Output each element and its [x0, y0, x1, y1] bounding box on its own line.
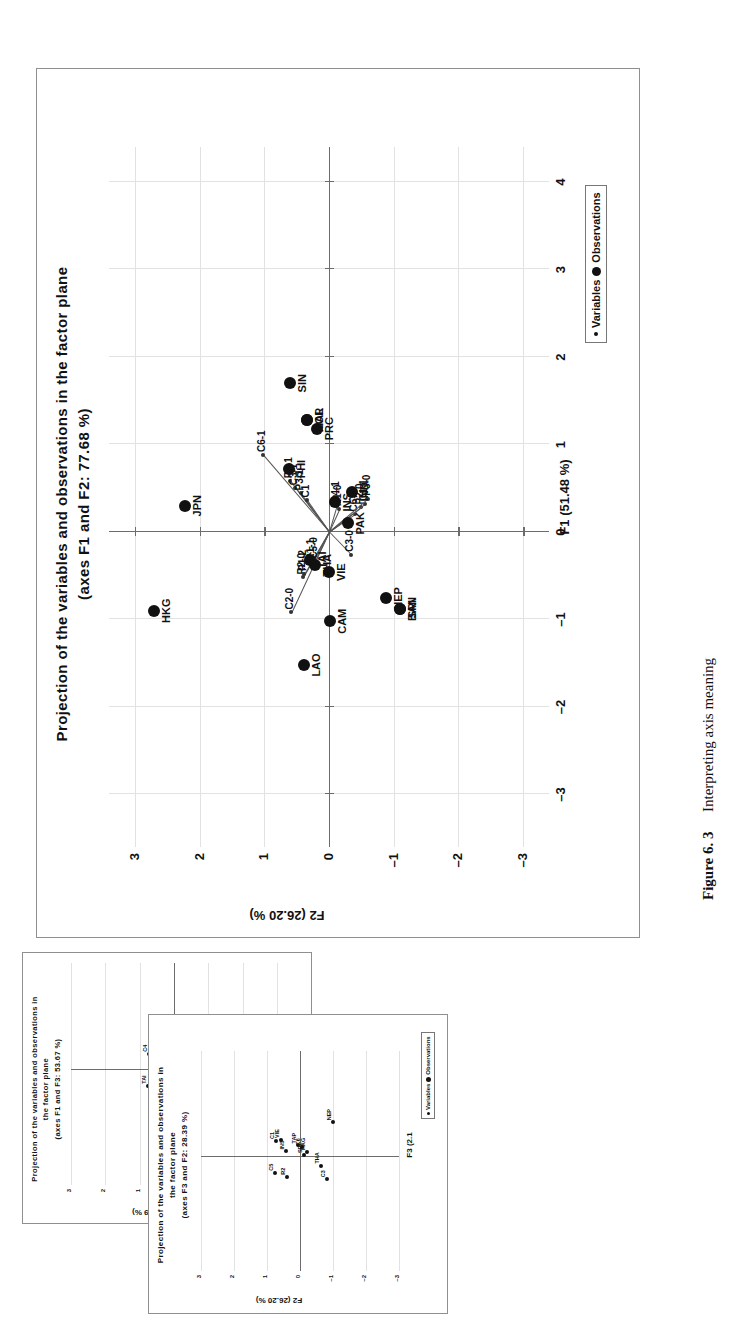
observation-label: BAN — [406, 597, 418, 621]
small-chart-2-title: Projection of the variables and observat… — [155, 1015, 191, 1315]
observation-label: C3 — [320, 1170, 326, 1177]
legend-observations-label-small2: Observations — [425, 1036, 431, 1074]
small-chart-1-title-line3: (axes F1 and F3: 53.67 %) — [52, 953, 63, 1225]
figure-caption: Figure 6. 3 Interpreting axis meaning — [700, 658, 717, 900]
observation-label: PAK — [354, 512, 366, 534]
chart-legend: Variables Observations — [585, 185, 607, 343]
y-axis-tick — [264, 527, 265, 536]
small-chart-2-title-line1: Projection of the variables and observat… — [155, 1015, 167, 1315]
y-gridline — [264, 147, 265, 847]
x-tick-label: –2 — [553, 691, 568, 723]
legend-variables-label: Variables — [590, 280, 602, 328]
observation-label: LAO — [310, 653, 322, 676]
observation-label: HKG — [160, 599, 172, 623]
x-axis-tick — [325, 793, 334, 794]
y-gridline — [71, 963, 72, 1185]
small-chart-2-rotated-canvas: Projection of the variables and observat… — [149, 1015, 449, 1315]
y-axis-tick — [200, 527, 201, 536]
y-tick-label: 3 — [66, 1189, 72, 1207]
y-gridline — [366, 1051, 367, 1271]
observation-point — [302, 1153, 306, 1157]
variable-label: C6-1 — [256, 430, 267, 452]
y-gridline — [234, 1051, 235, 1271]
observation-point — [301, 414, 313, 426]
legend-observations-marker-small2 — [426, 1077, 431, 1082]
x-axis-tick — [325, 268, 334, 269]
observation-label: CAM — [336, 609, 348, 634]
observation-point — [304, 554, 316, 566]
observation-label: TAI — [141, 1075, 147, 1083]
observation-label: SIN — [296, 374, 308, 392]
y-gridline — [201, 1051, 202, 1271]
small-chart-1-title: Projection of the variables and observat… — [29, 953, 63, 1225]
variable-label: C2-0 — [284, 588, 295, 610]
small-chart-2-legend: Variables Observations — [421, 1032, 435, 1119]
legend-observations-label: Observations — [590, 192, 602, 262]
x-tick-label: 1 — [553, 429, 568, 461]
small-chart-2-title-line2: the factor plane — [167, 1015, 179, 1315]
y-axis-tick — [523, 527, 524, 536]
observation-label: TAI — [316, 552, 328, 569]
figure-caption-text: Interpreting axis meaning — [700, 658, 716, 812]
y-tick-label: 0 — [295, 1275, 301, 1293]
y-gridline — [135, 147, 136, 847]
x-tick-label: 4 — [553, 166, 568, 198]
y-gridline — [140, 963, 141, 1185]
main-y-axis-title: F2 (26.20 %) — [157, 908, 417, 923]
variable-point — [349, 553, 353, 557]
legend-observations-marker — [592, 267, 601, 276]
y-tick-label: –3 — [394, 1275, 400, 1293]
small-figure-panel-2: Projection of the variables and observat… — [148, 1014, 448, 1314]
y-gridline — [458, 147, 459, 847]
figure-number: Figure 6. 3 — [700, 832, 716, 900]
y-tick-label: –3 — [515, 853, 530, 881]
y-axis-tick — [135, 527, 136, 536]
observation-label: C5 — [268, 1164, 274, 1171]
observation-point — [285, 1175, 289, 1179]
y-tick-label: 1 — [135, 1189, 141, 1207]
small-chart-2-x-axis-title: F3 (2.1 — [405, 1085, 414, 1205]
observation-label: THA — [314, 1152, 320, 1163]
small-chart-1-title-line1: Projection of the variables and observat… — [29, 953, 40, 1225]
y-gridline — [399, 1051, 400, 1271]
x-tick-label: –1 — [553, 604, 568, 636]
y-tick-label: –1 — [328, 1275, 334, 1293]
y-tick-label: –2 — [361, 1275, 367, 1293]
main-chart-inner: Projection of the variables and observat… — [37, 69, 641, 939]
small-chart-2-y-axis-title: F2 (26.20 %) — [199, 1296, 359, 1305]
variable-label: C1 — [300, 485, 311, 498]
observation-label: R2 — [280, 1168, 286, 1175]
y-gridline — [105, 963, 106, 1185]
y-axis-tick — [394, 527, 395, 536]
y-tick-label: –2 — [450, 853, 465, 881]
observation-point — [148, 605, 160, 617]
main-figure-panel: Projection of the variables and observat… — [36, 68, 640, 938]
main-x-axis-title: F1 (51.48 %) — [557, 347, 572, 647]
y-tick-label: 2 — [229, 1275, 235, 1293]
y-axis-line — [201, 1156, 399, 1157]
x-tick-label: 0 — [553, 516, 568, 548]
y-tick-label: –1 — [386, 853, 401, 881]
observation-label: IND — [358, 482, 370, 501]
main-chart-title: Projection of the variables and observat… — [51, 69, 95, 939]
legend-variables-marker — [594, 332, 598, 336]
x-tick-label: –3 — [553, 779, 568, 811]
x-axis-tick — [325, 356, 334, 357]
x-axis-tick — [325, 443, 334, 444]
y-gridline — [523, 147, 524, 847]
variable-label: C3-0 — [344, 530, 355, 552]
y-gridline — [333, 1051, 334, 1271]
observation-label: INS — [341, 493, 353, 511]
legend-variables-marker-small2 — [427, 1112, 430, 1115]
y-axis-tick — [458, 527, 459, 536]
x-tick-label: 3 — [553, 254, 568, 286]
x-axis-line — [300, 1051, 301, 1271]
observation-label: VIE — [335, 563, 347, 581]
legend-variables-label-small2: Variables — [425, 1084, 431, 1110]
y-tick-label: 0 — [321, 853, 336, 881]
observation-label: VIE — [274, 1129, 280, 1138]
main-chart-title-line1: Projection of the variables and observat… — [51, 69, 73, 939]
small-chart-1-title-line2: the factor plane — [40, 953, 51, 1225]
main-chart-title-line2: (axes F1 and F2: 77.68 %) — [73, 69, 95, 939]
observation-point — [305, 1150, 309, 1154]
